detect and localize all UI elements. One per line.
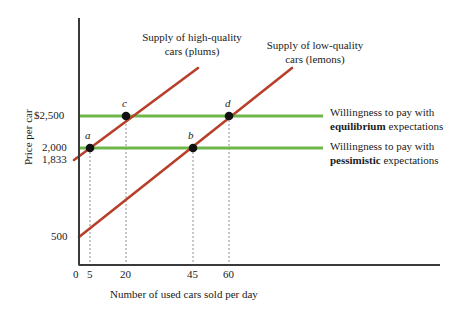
x-tick-label-45: 45 <box>187 268 198 281</box>
x-tick-label-20: 20 <box>120 268 131 281</box>
annotation-willingness-equilibrium-line2: equilibrium expectations <box>330 119 470 133</box>
x-axis-title: Number of used cars sold per day <box>110 288 258 301</box>
y-tick-label-1833: 1,833 <box>42 153 67 166</box>
point-label-c: c <box>122 97 127 110</box>
x-tick-label-60: 60 <box>223 268 234 281</box>
y-tick-label-500: 500 <box>51 230 68 243</box>
annotation-willingness-pessimistic-line1: Willingness to pay with <box>330 139 470 153</box>
x-tick-label-0: 0 <box>73 268 79 281</box>
data-point-b <box>189 144 198 153</box>
x-tick-label-5: 5 <box>87 268 93 281</box>
data-point-c <box>122 112 131 121</box>
data-point-a <box>86 144 95 153</box>
annotation-equilibrium-tail: expectations <box>386 120 444 132</box>
annotation-pessimistic-bold: pessimistic <box>330 154 381 166</box>
point-label-d: d <box>225 97 231 110</box>
annotation-supply-lemons: Supply of low-quality cars (lemons) <box>260 38 370 66</box>
annotation-willingness-equilibrium-line1: Willingness to pay with <box>330 105 470 119</box>
annotation-willingness-pessimistic: Willingness to pay with pessimistic expe… <box>330 139 470 167</box>
annotation-willingness-equilibrium: Willingness to pay with equilibrium expe… <box>330 105 470 133</box>
data-point-d <box>225 112 234 121</box>
annotation-supply-plums-line2: cars (plums) <box>137 44 247 58</box>
annotation-supply-lemons-line2: cars (lemons) <box>260 52 370 66</box>
point-label-b: b <box>188 129 194 142</box>
annotation-supply-lemons-line1: Supply of low-quality <box>260 38 370 52</box>
annotation-pessimistic-tail: expectations <box>381 154 439 166</box>
dropline-group <box>90 116 229 265</box>
point-label-a: a <box>85 129 91 142</box>
annotation-supply-plums-line1: Supply of high-quality <box>137 30 247 44</box>
annotation-supply-plums: Supply of high-quality cars (plums) <box>137 30 247 58</box>
chart-figure: Price per car $2,500 2,000 1,833 500 0 5… <box>0 0 472 312</box>
annotation-willingness-pessimistic-line2: pessimistic expectations <box>330 153 470 167</box>
supply-lemons-line <box>79 68 292 237</box>
annotation-equilibrium-bold: equilibrium <box>330 120 386 132</box>
y-tick-label-2500: $2,500 <box>34 109 64 122</box>
